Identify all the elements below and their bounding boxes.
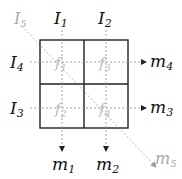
cell-label-f4: f4: [98, 100, 111, 119]
output-label-m4: m4: [150, 51, 173, 73]
input-label-I4: I4: [9, 52, 24, 74]
input-label-I2: I2: [97, 8, 112, 30]
cell-label-f3: f3: [98, 54, 111, 73]
output-label-m3: m3: [150, 97, 173, 119]
output-label-m5: m5: [155, 149, 177, 169]
input-label-I3: I3: [9, 98, 24, 120]
output-label-m2: m2: [96, 154, 119, 176]
diagonal-flow-line: [22, 26, 156, 167]
cell-label-f1: f1: [54, 54, 67, 73]
input-label-I1: I1: [53, 8, 68, 30]
output-label-m1: m1: [52, 154, 75, 176]
grid-diagram: f1 f3 f2 f4 I5 I1 I2 I4 I3 m4 m3 m5 m1 m…: [0, 0, 182, 179]
input-label-I5: I5: [13, 9, 27, 29]
cell-label-f2: f2: [54, 100, 67, 119]
